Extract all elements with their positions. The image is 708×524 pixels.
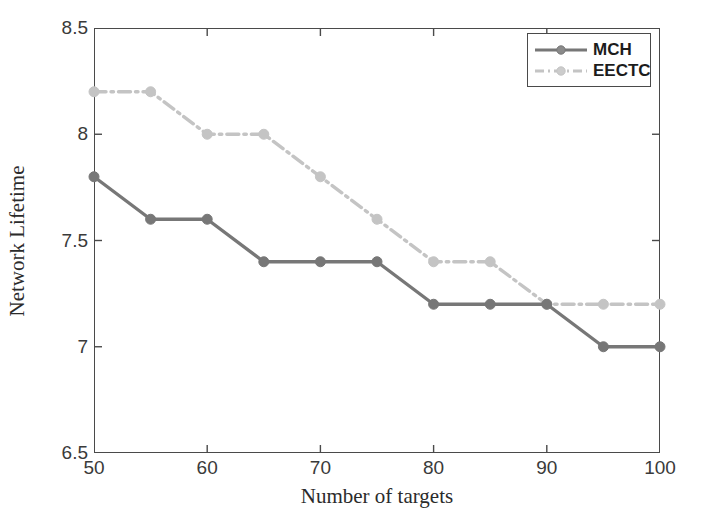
legend-label-eectc: EECTC bbox=[593, 62, 651, 79]
data-point-mch bbox=[598, 342, 608, 352]
chart-figure: Network Lifetime 6.577.588.5 50607080901… bbox=[0, 0, 708, 524]
legend-item-eectc: EECTC bbox=[533, 60, 644, 81]
data-point-mch bbox=[542, 299, 552, 309]
plot-lines bbox=[94, 28, 660, 453]
y-tick-label: 8.5 bbox=[62, 18, 88, 37]
data-point-mch bbox=[315, 257, 325, 267]
y-tick-label: 7.5 bbox=[62, 231, 88, 250]
chart-legend: MCH EECTC bbox=[527, 33, 651, 87]
y-tick-label: 8 bbox=[77, 124, 88, 143]
data-point-mch bbox=[146, 214, 156, 224]
data-point-mch bbox=[89, 172, 99, 182]
data-point-eectc bbox=[372, 214, 382, 224]
y-axis-tick-labels: 6.577.588.5 bbox=[0, 0, 88, 524]
legend-item-mch: MCH bbox=[533, 39, 644, 60]
x-tick-label: 90 bbox=[536, 458, 557, 477]
data-point-eectc bbox=[485, 257, 495, 267]
data-point-mch bbox=[429, 299, 439, 309]
legend-swatch-eectc bbox=[533, 61, 589, 81]
y-tick-label: 7 bbox=[77, 337, 88, 356]
data-point-mch bbox=[485, 299, 495, 309]
legend-label-mch: MCH bbox=[593, 41, 632, 58]
x-tick-label: 60 bbox=[197, 458, 218, 477]
data-point-eectc bbox=[202, 129, 212, 139]
data-point-mch bbox=[655, 342, 665, 352]
data-point-eectc bbox=[429, 257, 439, 267]
series-line-eectc bbox=[94, 92, 660, 305]
x-tick-label: 50 bbox=[83, 458, 104, 477]
data-point-eectc bbox=[89, 87, 99, 97]
data-point-eectc bbox=[259, 129, 269, 139]
data-point-mch bbox=[372, 257, 382, 267]
x-tick-label: 70 bbox=[310, 458, 331, 477]
data-point-eectc bbox=[146, 87, 156, 97]
x-tick-label: 100 bbox=[644, 458, 676, 477]
data-point-eectc bbox=[655, 299, 665, 309]
legend-swatch-mch bbox=[533, 40, 589, 60]
x-axis-tick-labels: 5060708090100 bbox=[0, 458, 708, 484]
data-point-eectc bbox=[598, 299, 608, 309]
data-point-mch bbox=[259, 257, 269, 267]
x-tick-label: 80 bbox=[423, 458, 444, 477]
data-point-eectc bbox=[315, 172, 325, 182]
x-axis-label: Number of targets bbox=[94, 486, 660, 507]
data-point-mch bbox=[202, 214, 212, 224]
